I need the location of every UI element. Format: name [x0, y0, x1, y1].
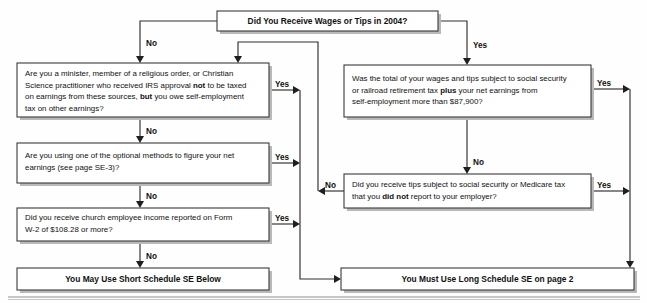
box-text-line: W-2 of $108.28 or more?: [25, 225, 113, 234]
box-text-line: earnings (see page SE-3)?: [25, 163, 120, 172]
arrowhead-tips-yes: [623, 187, 630, 195]
arrowhead-right-yes-rail: [626, 261, 634, 268]
node-short-se[interactable]: You May Use Short Schedule SE Below: [17, 268, 272, 293]
arrowhead-start-no: [136, 56, 144, 63]
edge-label-wages-yes: Yes: [597, 79, 612, 88]
box-text-line: Are you a minister, member of a religiou…: [25, 69, 233, 78]
arrowhead-wages-no: [463, 167, 471, 174]
edge-label-optional-yes: Yes: [275, 153, 290, 162]
edge-label-tips-yes: Yes: [597, 181, 612, 190]
node-short-se-label: You May Use Short Schedule SE Below: [65, 274, 221, 284]
box-text-line: tax on other earnings?: [25, 104, 104, 113]
node-long-se[interactable]: You Must Use Long Schedule SE on page 2: [341, 268, 637, 293]
arrowhead-start-yes: [463, 58, 471, 65]
edge-label-start-no: No: [146, 39, 157, 48]
box-text-line: on earnings from these sources, but you …: [25, 92, 245, 101]
arrowhead-optional-no: [136, 201, 144, 208]
edge-label-minister-yes: Yes: [275, 80, 290, 89]
edge-label-tips-no: No: [325, 181, 336, 190]
arrowhead-church-yes: [293, 220, 300, 228]
node-long-se-label: You Must Use Long Schedule SE on page 2: [401, 274, 573, 284]
edge-label-church-no: No: [146, 252, 157, 261]
arrowhead-tips-no-return: [234, 56, 242, 63]
node-wages-total[interactable]: Was the total of your wages and tips sub…: [344, 65, 594, 120]
node-unreported-tips[interactable]: Did you receive tips subject to social s…: [344, 174, 594, 211]
edge-start-yes: [438, 21, 467, 58]
box-text-line: Was the total of your wages and tips sub…: [352, 74, 567, 83]
node-church-income[interactable]: Did you receive church employee income r…: [17, 208, 272, 244]
box-text-line: self-employment more than $87,900?: [352, 97, 483, 106]
arrowhead-minister-no: [136, 136, 144, 143]
arrowhead-optional-yes: [293, 159, 300, 167]
edge-label-start-yes: Yes: [473, 41, 488, 50]
node-start[interactable]: Did You Receive Wages or Tips in 2004?: [217, 11, 441, 34]
edge-label-wages-no: No: [473, 158, 484, 167]
arrowhead-minister-yes: [293, 86, 300, 94]
edge-label-church-yes: Yes: [275, 214, 290, 223]
arrowhead-wages-yes: [623, 85, 630, 93]
flowchart-canvas: No Yes No Yes No Yes No Yes No Yes No Ye…: [0, 0, 647, 303]
node-start-label: Did You Receive Wages or Tips in 2004?: [248, 16, 408, 26]
box-text-line: or railroad retirement tax plus your net…: [352, 86, 538, 95]
flowchart-container: No Yes No Yes No Yes No Yes No Yes No Ye…: [0, 0, 647, 303]
box-text-line: Did you receive church employee income r…: [25, 213, 233, 222]
edge-label-minister-no: No: [146, 127, 157, 136]
footer-divider: [8, 297, 640, 300]
edge-label-optional-no: No: [146, 192, 157, 201]
arrowhead-church-no: [136, 261, 144, 268]
node-minister[interactable]: Are you a minister, member of a religiou…: [17, 63, 272, 120]
box-text-line: Did you receive tips subject to social s…: [352, 180, 565, 189]
box-text-line: that you did not report to your employer…: [352, 192, 497, 201]
arrowhead-left-yes-rail: [334, 275, 341, 283]
node-optional-methods[interactable]: Are you using one of the optional method…: [17, 143, 272, 186]
box-text-line: Are you using one of the optional method…: [25, 151, 235, 160]
box-text-line: Science practitioner who received IRS ap…: [25, 81, 247, 90]
arrowhead-tips-no: [318, 187, 325, 195]
node-layer: Did You Receive Wages or Tips in 2004? A…: [17, 11, 637, 293]
